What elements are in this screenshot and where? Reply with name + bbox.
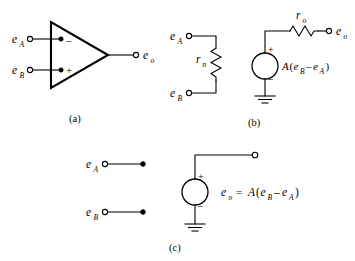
opamp-triangle-icon (51, 22, 108, 88)
panel-b-rn-sublabel: n (203, 60, 207, 69)
panel-c-caption: (c) (169, 242, 181, 254)
panel-c-expr-open-paren: ( (256, 186, 260, 199)
panel-c-input-a-terminal[interactable] (102, 161, 107, 166)
panel-c-input-a-sublabel: A (93, 165, 99, 174)
panel-c-input-b-label: e (86, 206, 91, 218)
panel-b-expr-minus: – (305, 60, 312, 72)
panel-b-input-b-terminal[interactable] (186, 90, 191, 95)
panel-b-expr-e2: e (313, 60, 318, 72)
panel-c-expr-minus: – (273, 186, 280, 198)
panel-b-input-b-sublabel: B (178, 94, 183, 103)
panel-b-source-minus: – (267, 73, 274, 84)
panel-a-noninverting-node (59, 68, 63, 72)
ground-icon-c (185, 224, 205, 231)
panel-b-output-sublabel: o (344, 32, 348, 41)
panel-a-input-a-label: e (12, 33, 17, 45)
panel-b-input-b-label: e (170, 87, 175, 99)
panel-c-dependent-source (182, 179, 208, 205)
ground-icon-b (255, 96, 275, 103)
panel-a-output-terminal[interactable] (133, 52, 138, 57)
panel-b: e A e B r n + – A ( e B – (170, 9, 348, 129)
panel-c-input-b-sublabel: B (94, 213, 99, 222)
output-resistor-ro-icon (290, 26, 318, 36)
panel-b-dependent-source (252, 53, 278, 79)
panel-a-inverting-sign: – (65, 34, 72, 46)
panel-c-expr-close-paren: ) (295, 186, 299, 199)
panel-c-source-expression: e o = A ( e B – e A ) (221, 186, 299, 202)
panel-c-expr-equals: = (236, 186, 242, 198)
panel-c-expr-eo-sub: o (229, 193, 233, 202)
panel-b-expr-e1-sub: B (300, 67, 305, 76)
panel-c-source-minus: – (197, 200, 204, 211)
panel-c-source-plus: + (198, 171, 204, 182)
panel-b-source-expression: A ( e B – e A ) (281, 60, 330, 76)
panel-a-output-sublabel: o (151, 56, 155, 65)
panel-b-ro-label: r (296, 9, 301, 21)
panel-c-input-b-terminal[interactable] (102, 209, 107, 214)
panel-a-input-a-sublabel: A (19, 40, 25, 49)
panel-c-output-terminal[interactable] (252, 152, 258, 158)
panel-c-expr-e1-sub: B (268, 193, 273, 202)
panel-b-expr-close-paren: ) (326, 60, 330, 73)
panel-a-input-b-terminal[interactable] (27, 67, 32, 72)
panel-b-input-a-label: e (170, 30, 175, 42)
panel-a-input-b-label: e (12, 64, 17, 76)
panel-b-expr-e1: e (294, 60, 299, 72)
panel-c-expr-e2-sub: A (288, 193, 294, 202)
panel-a-input-b-sublabel: B (20, 71, 25, 80)
panel-a-input-a-terminal[interactable] (27, 36, 32, 41)
panel-c-expr-e2: e (282, 186, 287, 198)
panel-c-expr-e1: e (261, 186, 266, 198)
panel-b-caption: (b) (248, 117, 261, 129)
panel-a-noninverting-sign: + (66, 64, 72, 76)
panel-b-expr-gain: A (281, 60, 289, 72)
panel-b-source-plus: + (268, 44, 274, 55)
figure-canvas: e A e B – + e o (a) (0, 0, 355, 261)
panel-b-input-a-terminal[interactable] (186, 33, 191, 38)
panel-c-input-a-node (141, 162, 146, 167)
panel-b-input-a-sublabel: A (177, 37, 183, 46)
panel-b-input-a-wire (192, 36, 216, 48)
panel-b-output-terminal[interactable] (326, 28, 331, 33)
circuit-figure: e A e B – + e o (a) (0, 0, 355, 261)
panel-b-expr-e2-sub: A (319, 67, 325, 76)
panel-a-output-label: e (143, 49, 148, 61)
panel-a-inverting-node (59, 37, 63, 41)
panel-c-expr-gain: A (247, 186, 256, 198)
panel-c-expr-eo: e (221, 186, 226, 198)
input-resistor-rn-icon (211, 48, 221, 81)
panel-b-output-label: e (336, 25, 341, 37)
panel-a: e A e B – + e o (a) (12, 22, 155, 125)
panel-c: e A e B + – e o = A ( e B (86, 152, 299, 254)
panel-b-input-b-wire (192, 81, 216, 93)
panel-c-input-a-label: e (86, 158, 91, 170)
panel-b-ro-sublabel: o (303, 16, 307, 25)
panel-b-rn-label: r (196, 53, 201, 65)
panel-c-input-b-node (141, 210, 146, 215)
panel-a-caption: (a) (69, 113, 81, 125)
